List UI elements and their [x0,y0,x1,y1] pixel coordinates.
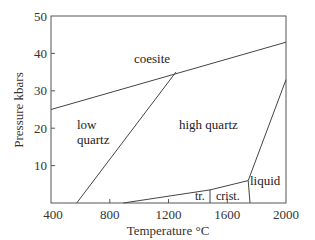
region-label-cristobalite: crist. [216,189,240,203]
y-tick-50: 50 [34,9,47,24]
x-tick-2000: 2000 [273,207,299,222]
y-tick-30: 30 [34,83,47,98]
melting-curve [248,80,286,181]
phase-diagram: 50 40 30 20 10 400 800 1200 1600 2000 Te… [0,0,315,240]
region-label-low-quartz: quartz [77,132,110,147]
region-label-coesite: coesite [134,51,170,66]
x-axis-title: Temperature °C [127,223,210,238]
y-tick-20: 20 [34,121,47,136]
y-tick-10: 10 [34,158,47,173]
region-label-low: low [77,117,97,132]
x-tick-1600: 1600 [214,207,240,222]
x-tick-800: 800 [100,207,120,222]
y-axis-title: Pressure kbars [11,72,26,147]
x-tick-1200: 1200 [156,207,182,222]
region-label-tridymite: tr. [195,189,205,203]
region-label-liquid: liquid [250,173,281,188]
region-label-high-quartz: high quartz [179,117,238,132]
x-tick-400: 400 [43,207,63,222]
y-tick-40: 40 [34,46,47,61]
